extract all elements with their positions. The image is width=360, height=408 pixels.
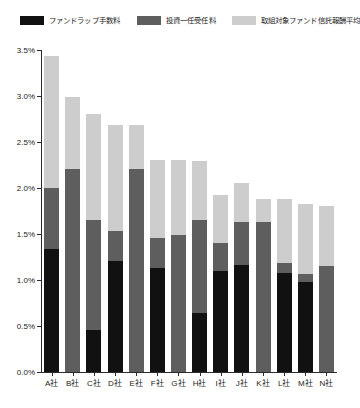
bar-segment-2 [234, 183, 249, 223]
bar-segment-1 [298, 274, 313, 282]
x-tick-label-I社: I社 [216, 377, 226, 388]
legend-label-fundwrap-fee: ファンドラップ手数料 [49, 16, 120, 25]
y-tick-label: 1.0% [17, 276, 35, 285]
x-tick-label-F社: F社 [151, 377, 164, 388]
bar-segment-1 [256, 222, 271, 372]
y-tick-label: 2.0% [17, 184, 35, 193]
x-tick [178, 372, 179, 376]
legend-swatch-discretionary-fee [137, 16, 161, 25]
bar-segment-2 [256, 199, 271, 222]
x-tick [94, 372, 95, 376]
bar-segment-2 [44, 56, 59, 188]
bar-F社 [150, 160, 165, 372]
x-tick [200, 372, 201, 376]
bar-segment-2 [65, 97, 80, 169]
bar-segment-2 [150, 160, 165, 237]
bar-E社 [129, 125, 144, 372]
x-axis-line [41, 372, 337, 373]
x-tick-label-N社: N社 [320, 377, 334, 388]
bar-segment-2 [213, 195, 228, 243]
bar-D社 [108, 125, 123, 372]
bar-segment-0 [277, 273, 292, 372]
bar-segment-1 [277, 263, 292, 272]
y-tick-label: 0.5% [17, 322, 35, 331]
bar-J社 [234, 183, 249, 373]
x-tick [115, 372, 116, 376]
bar-K社 [256, 199, 271, 372]
x-tick-label-K社: K社 [256, 377, 269, 388]
bar-segment-1 [150, 238, 165, 268]
bar-I社 [213, 195, 228, 372]
plot-area: 0.0%0.5%1.0%1.5%2.0%2.5%3.0%3.5% A社B社C社D… [41, 50, 337, 372]
x-tick-label-E社: E社 [129, 377, 142, 388]
bar-segment-2 [319, 206, 334, 266]
x-tick-label-A社: A社 [45, 377, 58, 388]
x-tick-label-B社: B社 [66, 377, 79, 388]
legend-item-fundwrap-fee: ファンドラップ手数料 [20, 16, 120, 25]
legend-item-fund-trust-fee-avg: 取組対象ファンド信託報酬平均 [232, 16, 360, 25]
x-tick-label-D社: D社 [108, 377, 122, 388]
bar-segment-2 [298, 204, 313, 274]
x-tick-label-J社: J社 [236, 377, 248, 388]
bar-H社 [192, 161, 207, 372]
bar-segment-1 [192, 220, 207, 313]
bar-group [41, 50, 337, 372]
bar-segment-2 [108, 125, 123, 232]
bar-L社 [277, 199, 292, 372]
bar-segment-1 [44, 188, 59, 249]
bar-segment-0 [234, 265, 249, 372]
y-tick-label: 3.5% [17, 46, 35, 55]
bar-segment-1 [171, 235, 186, 372]
x-tick-label-H社: H社 [193, 377, 207, 388]
bar-segment-0 [298, 282, 313, 372]
bar-N社 [319, 206, 334, 372]
bar-segment-2 [129, 125, 144, 169]
legend-label-discretionary-fee: 投資一任受任料 [166, 16, 216, 25]
bar-G社 [171, 160, 186, 372]
bar-segment-2 [192, 161, 207, 220]
bar-B社 [65, 97, 80, 372]
bar-segment-1 [108, 231, 123, 260]
y-tick [37, 372, 41, 373]
bar-segment-2 [171, 160, 186, 235]
bar-segment-1 [86, 220, 101, 329]
bar-segment-0 [86, 330, 101, 372]
x-tick [52, 372, 53, 376]
bar-segment-2 [86, 114, 101, 220]
legend-item-discretionary-fee: 投資一任受任料 [137, 16, 216, 25]
bar-segment-1 [129, 169, 144, 372]
x-tick [263, 372, 264, 376]
x-tick-label-C社: C社 [87, 377, 101, 388]
x-tick [157, 372, 158, 376]
y-tick-label: 1.5% [17, 230, 35, 239]
x-tick [73, 372, 74, 376]
x-tick-label-G社: G社 [171, 377, 185, 388]
bar-segment-0 [192, 313, 207, 372]
x-tick [221, 372, 222, 376]
bar-segment-0 [213, 271, 228, 372]
bar-A社 [44, 56, 59, 372]
bar-segment-1 [319, 266, 334, 372]
x-tick [305, 372, 306, 376]
bar-segment-1 [234, 222, 249, 265]
bar-segment-1 [65, 169, 80, 372]
x-tick-label-L社: L社 [278, 377, 290, 388]
legend-swatch-fundwrap-fee [20, 16, 44, 25]
y-tick-label: 2.5% [17, 138, 35, 147]
x-tick [326, 372, 327, 376]
x-tick [136, 372, 137, 376]
y-tick-label: 0.0% [17, 368, 35, 377]
legend-label-fund-trust-fee-avg: 取組対象ファンド信託報酬平均 [261, 16, 360, 25]
x-tick-label-M社: M社 [298, 377, 313, 388]
chart-legend: ファンドラップ手数料 投資一任受任料 取組対象ファンド信託報酬平均 [0, 12, 347, 28]
legend-swatch-fund-trust-fee-avg [232, 16, 256, 25]
x-tick [242, 372, 243, 376]
bar-M社 [298, 204, 313, 372]
bar-segment-2 [277, 199, 292, 263]
bar-segment-0 [108, 261, 123, 372]
x-tick [284, 372, 285, 376]
bar-C社 [86, 114, 101, 372]
bar-segment-0 [44, 249, 59, 372]
bar-segment-1 [213, 243, 228, 271]
